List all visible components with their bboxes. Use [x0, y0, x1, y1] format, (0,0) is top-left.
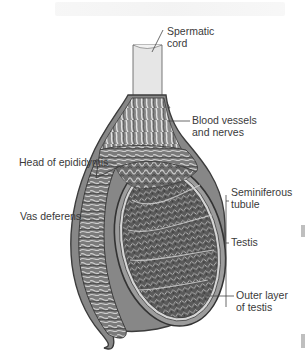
- label-line: Outer layer: [236, 290, 288, 302]
- label-line: Testis: [231, 237, 258, 249]
- label-line: and nerves: [192, 127, 257, 139]
- label-spermatic-cord: Spermatic cord: [167, 26, 214, 49]
- label-line: Seminiferous: [231, 187, 292, 199]
- label-head-of-epididymis: Head of epididymis: [19, 157, 108, 169]
- margin-mark: [301, 225, 305, 237]
- margin-mark: [301, 334, 305, 348]
- label-blood-vessels: Blood vessels and nerves: [192, 115, 257, 138]
- label-vas-deferens: Vas deferens: [20, 211, 81, 223]
- label-line: Vas deferens: [20, 211, 81, 223]
- label-line: Head of epididymis: [19, 157, 108, 169]
- label-line: Spermatic: [167, 26, 214, 38]
- label-testis: Testis: [231, 237, 258, 249]
- label-outer-layer-of-testis: Outer layer of testis: [236, 290, 288, 313]
- label-seminiferous-tubule: Seminiferous tubule: [231, 187, 292, 210]
- label-line: Blood vessels: [192, 115, 257, 127]
- figure-stage: Spermatic cord Blood vessels and nerves …: [0, 0, 305, 350]
- label-line: tubule: [231, 199, 292, 211]
- label-line: of testis: [236, 302, 288, 314]
- label-line: cord: [167, 38, 214, 50]
